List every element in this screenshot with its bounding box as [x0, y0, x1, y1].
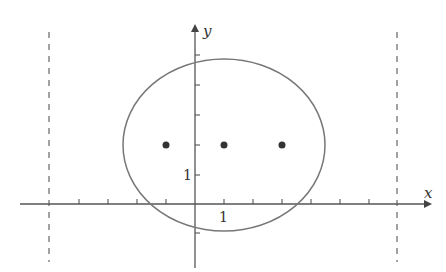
point [279, 142, 286, 149]
x-axis-label: x [424, 184, 433, 202]
diagram-canvas: x y 1 1 [0, 0, 446, 272]
x-ticks [79, 199, 369, 204]
y-tick-label-1: 1 [183, 167, 192, 183]
point [163, 142, 170, 149]
x-tick-label-1: 1 [219, 209, 228, 225]
y-axis-label: y [202, 22, 212, 40]
point [221, 142, 228, 149]
y-ticks [195, 55, 200, 233]
